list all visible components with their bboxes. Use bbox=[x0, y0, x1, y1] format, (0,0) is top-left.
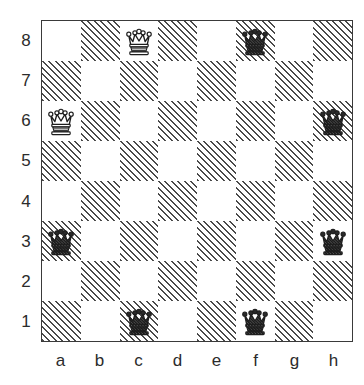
square-g6[interactable] bbox=[275, 101, 314, 141]
square-f3[interactable] bbox=[236, 221, 275, 261]
square-b7[interactable] bbox=[81, 61, 120, 101]
piece-white-queen-a6[interactable] bbox=[44, 104, 78, 138]
square-g1[interactable] bbox=[275, 301, 314, 341]
square-d6[interactable] bbox=[158, 101, 197, 141]
rank-label-4: 4 bbox=[14, 181, 38, 221]
file-label-d: d bbox=[158, 345, 197, 375]
piece-black-queen-c1[interactable] bbox=[122, 304, 156, 338]
square-d7[interactable] bbox=[158, 61, 197, 101]
square-f1[interactable] bbox=[236, 301, 275, 341]
square-c4[interactable] bbox=[120, 181, 159, 221]
square-a8[interactable] bbox=[42, 21, 81, 61]
square-d8[interactable] bbox=[158, 21, 197, 61]
square-h4[interactable] bbox=[313, 181, 352, 221]
square-h2[interactable] bbox=[313, 261, 352, 301]
square-c8[interactable] bbox=[120, 21, 159, 61]
square-g7[interactable] bbox=[275, 61, 314, 101]
square-a2[interactable] bbox=[42, 261, 81, 301]
square-d1[interactable] bbox=[158, 301, 197, 341]
square-e4[interactable] bbox=[197, 181, 236, 221]
square-b5[interactable] bbox=[81, 141, 120, 181]
square-c6[interactable] bbox=[120, 101, 159, 141]
square-h6[interactable] bbox=[313, 101, 352, 141]
rank-label-2: 2 bbox=[14, 262, 38, 302]
square-h1[interactable] bbox=[313, 301, 352, 341]
file-label-b: b bbox=[80, 345, 119, 375]
square-f4[interactable] bbox=[236, 181, 275, 221]
square-a1[interactable] bbox=[42, 301, 81, 341]
file-labels: a b c d e f g h bbox=[41, 345, 353, 375]
file-label-c: c bbox=[119, 345, 158, 375]
piece-black-queen-h3[interactable] bbox=[316, 224, 350, 258]
square-g5[interactable] bbox=[275, 141, 314, 181]
square-a3[interactable] bbox=[42, 221, 81, 261]
piece-black-queen-a3[interactable] bbox=[44, 224, 78, 258]
chessboard bbox=[41, 20, 353, 342]
rank-label-3: 3 bbox=[14, 221, 38, 261]
square-h7[interactable] bbox=[313, 61, 352, 101]
rank-label-7: 7 bbox=[14, 60, 38, 100]
square-e7[interactable] bbox=[197, 61, 236, 101]
chessboard-grid bbox=[42, 21, 352, 341]
file-label-f: f bbox=[236, 345, 275, 375]
square-b3[interactable] bbox=[81, 221, 120, 261]
rank-label-8: 8 bbox=[14, 20, 38, 60]
square-f5[interactable] bbox=[236, 141, 275, 181]
square-d5[interactable] bbox=[158, 141, 197, 181]
square-c2[interactable] bbox=[120, 261, 159, 301]
square-a7[interactable] bbox=[42, 61, 81, 101]
square-g3[interactable] bbox=[275, 221, 314, 261]
square-h3[interactable] bbox=[313, 221, 352, 261]
chess-diagram: 8 7 6 5 4 3 2 1 a b c d e f g h bbox=[0, 0, 364, 385]
square-b2[interactable] bbox=[81, 261, 120, 301]
square-a6[interactable] bbox=[42, 101, 81, 141]
square-c7[interactable] bbox=[120, 61, 159, 101]
square-a4[interactable] bbox=[42, 181, 81, 221]
rank-label-6: 6 bbox=[14, 101, 38, 141]
file-label-g: g bbox=[275, 345, 314, 375]
rank-labels: 8 7 6 5 4 3 2 1 bbox=[14, 20, 38, 342]
square-f7[interactable] bbox=[236, 61, 275, 101]
square-b4[interactable] bbox=[81, 181, 120, 221]
square-e8[interactable] bbox=[197, 21, 236, 61]
file-label-h: h bbox=[314, 345, 353, 375]
square-h8[interactable] bbox=[313, 21, 352, 61]
square-e3[interactable] bbox=[197, 221, 236, 261]
square-c5[interactable] bbox=[120, 141, 159, 181]
square-b6[interactable] bbox=[81, 101, 120, 141]
piece-white-queen-c8[interactable] bbox=[122, 24, 156, 58]
rank-label-1: 1 bbox=[14, 302, 38, 342]
square-e5[interactable] bbox=[197, 141, 236, 181]
square-h5[interactable] bbox=[313, 141, 352, 181]
piece-black-queen-h6[interactable] bbox=[316, 104, 350, 138]
square-f6[interactable] bbox=[236, 101, 275, 141]
piece-black-queen-f8[interactable] bbox=[238, 24, 272, 58]
square-c3[interactable] bbox=[120, 221, 159, 261]
rank-label-5: 5 bbox=[14, 141, 38, 181]
file-label-e: e bbox=[197, 345, 236, 375]
square-f8[interactable] bbox=[236, 21, 275, 61]
square-f2[interactable] bbox=[236, 261, 275, 301]
square-d3[interactable] bbox=[158, 221, 197, 261]
square-d2[interactable] bbox=[158, 261, 197, 301]
square-e2[interactable] bbox=[197, 261, 236, 301]
square-b1[interactable] bbox=[81, 301, 120, 341]
square-a5[interactable] bbox=[42, 141, 81, 181]
square-g2[interactable] bbox=[275, 261, 314, 301]
square-b8[interactable] bbox=[81, 21, 120, 61]
square-c1[interactable] bbox=[120, 301, 159, 341]
square-d4[interactable] bbox=[158, 181, 197, 221]
square-g8[interactable] bbox=[275, 21, 314, 61]
square-e1[interactable] bbox=[197, 301, 236, 341]
piece-black-queen-f1[interactable] bbox=[238, 304, 272, 338]
square-e6[interactable] bbox=[197, 101, 236, 141]
square-g4[interactable] bbox=[275, 181, 314, 221]
file-label-a: a bbox=[41, 345, 80, 375]
